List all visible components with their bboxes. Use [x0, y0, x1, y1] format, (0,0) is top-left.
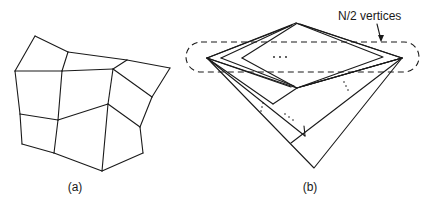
figure-a-caption: (a) [68, 180, 83, 194]
diagram-canvas: (a) [0, 0, 431, 208]
mesh-edge [58, 71, 62, 120]
mesh-edge [102, 153, 143, 171]
mesh-edge [108, 69, 113, 104]
mesh-edge [20, 114, 22, 144]
mesh-edge [113, 69, 152, 97]
figure-b-caption: (b) [303, 180, 318, 194]
mesh-edge [15, 71, 20, 114]
mesh-edge [54, 120, 58, 153]
mesh-edge [113, 60, 127, 69]
figure-b-graph [186, 23, 419, 168]
mesh-edge [127, 60, 170, 68]
mesh-edge [152, 68, 170, 97]
mesh-edge [54, 153, 102, 171]
mesh-edge [140, 127, 143, 153]
mesh-edge [102, 104, 108, 171]
mesh-edge [35, 36, 68, 52]
figure-a-mesh [15, 36, 170, 171]
mesh-edge [20, 114, 58, 120]
mesh-edge [58, 104, 108, 120]
mesh-edge [15, 36, 35, 71]
mesh-edge [68, 52, 127, 60]
mesh-edge [62, 69, 113, 71]
mesh-edge [62, 52, 68, 71]
annotation-label: N/2 vertices [338, 9, 401, 23]
mesh-edge [140, 97, 152, 127]
arrowhead-icon [378, 35, 384, 42]
mesh-edge [22, 144, 54, 153]
mesh-edge [108, 104, 140, 127]
